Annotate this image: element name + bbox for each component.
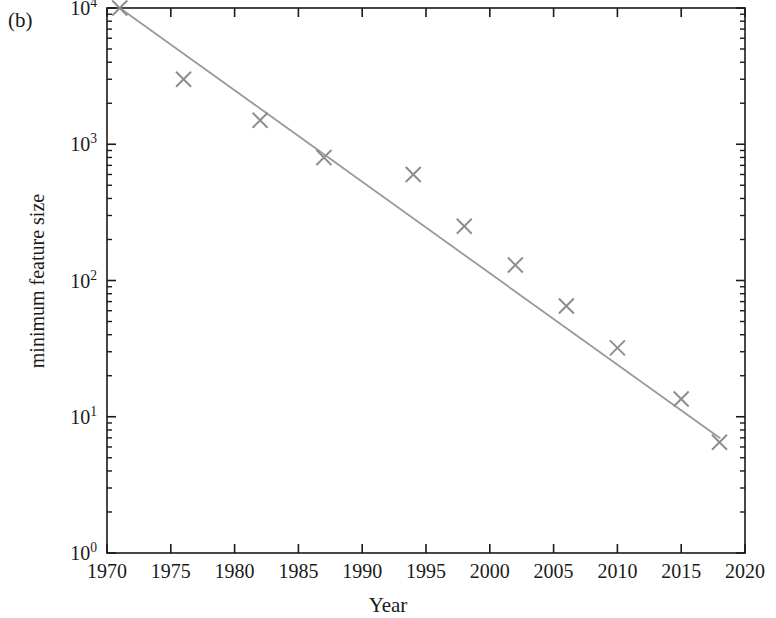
data-point	[457, 219, 472, 234]
x-tick-label: 2015	[661, 561, 701, 581]
x-tick-label: 2010	[597, 561, 637, 581]
data-point	[253, 113, 268, 128]
axis-major-ticks	[107, 8, 745, 553]
trend-line	[120, 8, 720, 438]
x-tick-label: 2020	[725, 561, 765, 581]
data-point	[406, 167, 421, 182]
plot-frame	[107, 8, 745, 553]
data-point	[508, 257, 523, 272]
y-axis-minor-ticks	[107, 14, 745, 512]
data-point	[674, 391, 689, 406]
y-tick-label: 104	[70, 0, 97, 18]
x-tick-label: 1995	[406, 561, 446, 581]
data-point	[610, 340, 625, 355]
plot-area	[0, 0, 776, 618]
data-point	[176, 72, 191, 87]
x-tick-label: 1990	[342, 561, 382, 581]
y-tick-label: 102	[70, 271, 97, 291]
y-tick-label: 101	[70, 407, 97, 427]
x-tick-label: 1985	[278, 561, 318, 581]
x-tick-label: 2005	[534, 561, 574, 581]
data-point	[559, 298, 574, 313]
y-tick-label: 103	[70, 134, 97, 154]
x-tick-label: 2000	[470, 561, 510, 581]
figure-panel: (b) minimum feature size Year 1001011021…	[0, 0, 776, 618]
x-tick-label: 1970	[87, 561, 127, 581]
x-tick-label: 1975	[151, 561, 191, 581]
x-tick-label: 1980	[215, 561, 255, 581]
